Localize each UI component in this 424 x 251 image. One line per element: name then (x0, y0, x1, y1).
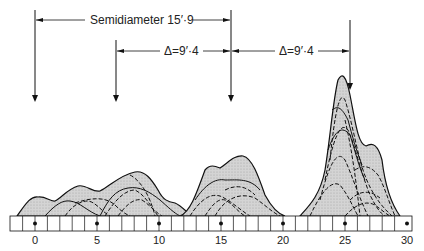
tick-label: 15 (215, 234, 227, 246)
profile-left (17, 172, 192, 216)
profile-middle (180, 156, 285, 216)
tick-label: 30 (401, 234, 413, 246)
tick-label: 20 (277, 234, 289, 246)
delta-label-left: Δ=9′·4 (164, 44, 199, 58)
tick-label: 5 (94, 234, 100, 246)
scale-labels: 0 5 10 15 20 25 30 (32, 234, 413, 246)
semidiameter-label: Semidiameter 15′·9 (90, 13, 194, 27)
delta-label-right: Δ=9′·4 (279, 44, 314, 58)
interferometer-diagram: Semidiameter 15′·9 Δ=9′·4 Δ=9′·4 (0, 0, 424, 251)
profile-right (300, 76, 400, 216)
tick-label: 10 (153, 234, 165, 246)
scale-bar (10, 216, 412, 231)
tick-label: 0 (32, 234, 38, 246)
tick-label: 25 (339, 234, 351, 246)
